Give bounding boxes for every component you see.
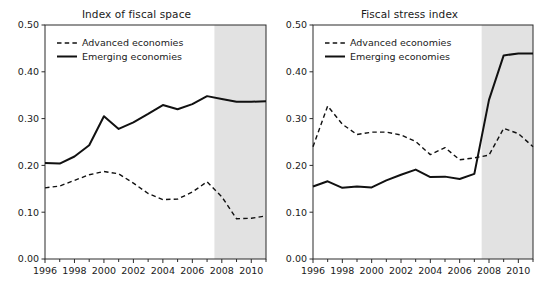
x-tick-label: 2008 (477, 265, 501, 276)
legend-label-advanced: Advanced economies (82, 37, 183, 48)
x-tick-label: 1996 (33, 265, 57, 276)
x-tick-label: 2002 (121, 265, 145, 276)
legend-label-advanced: Advanced economies (350, 37, 451, 48)
y-tick-label: 0.40 (18, 66, 39, 77)
y-tick-label: 0.50 (18, 19, 39, 30)
legend-label-emerging: Emerging economies (82, 51, 182, 62)
x-tick-label: 2002 (389, 265, 413, 276)
x-tick-label: 2006 (180, 265, 204, 276)
y-tick-label: 0.20 (18, 160, 39, 171)
x-tick-label: 1998 (62, 265, 86, 276)
x-tick-label: 2008 (210, 265, 234, 276)
plot-area-fiscal-stress: 0.000.100.200.300.400.501996199820002002… (273, 0, 547, 297)
x-tick-label: 1996 (301, 265, 325, 276)
x-tick-label: 2006 (448, 265, 472, 276)
x-tick-label: 2010 (506, 265, 530, 276)
y-tick-label: 0.00 (18, 253, 39, 264)
y-tick-label: 0.00 (286, 253, 307, 264)
x-tick-label: 2004 (418, 265, 442, 276)
legend-label-emerging: Emerging economies (350, 51, 450, 62)
x-tick-label: 2000 (360, 265, 384, 276)
y-tick-label: 0.10 (18, 207, 39, 218)
chart-panel-fiscal-stress: Fiscal stress index 0.000.100.200.300.40… (273, 0, 546, 297)
y-tick-label: 0.30 (18, 113, 39, 124)
shaded-projection-region (482, 25, 533, 259)
plot-area-fiscal-space: 0.000.100.200.300.400.501996199820002002… (0, 0, 273, 297)
x-tick-label: 1998 (330, 265, 354, 276)
x-tick-label: 2000 (92, 265, 116, 276)
chart-panel-fiscal-space: Index of fiscal space 0.000.100.200.300.… (0, 0, 273, 297)
y-tick-label: 0.50 (286, 19, 307, 30)
x-tick-label: 2010 (239, 265, 263, 276)
y-tick-label: 0.10 (286, 207, 307, 218)
shaded-projection-region (214, 25, 266, 259)
y-tick-label: 0.40 (286, 66, 307, 77)
y-tick-label: 0.20 (286, 160, 307, 171)
x-tick-label: 2004 (151, 265, 175, 276)
y-tick-label: 0.30 (286, 113, 307, 124)
